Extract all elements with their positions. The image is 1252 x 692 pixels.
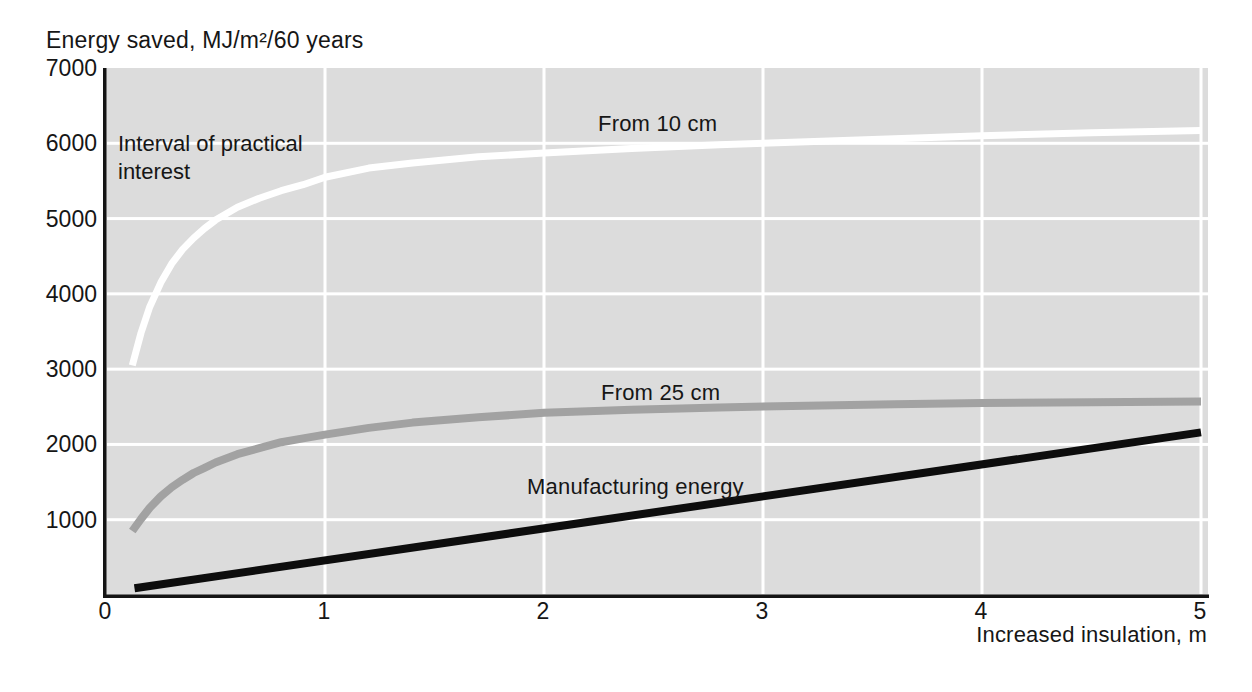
x-tick-label: 2 (523, 599, 563, 623)
series-label-from-10-cm: From 10 cm (598, 111, 717, 137)
x-axis-line (103, 595, 1209, 599)
x-tick-label: 3 (742, 599, 782, 623)
v-gridline (981, 68, 984, 594)
v-gridline (1200, 68, 1203, 594)
series-label-from-25-cm: From 25 cm (601, 380, 720, 406)
chart-page: Energy saved, MJ/m²/60 years 10002000300… (0, 0, 1252, 692)
h-gridline (107, 217, 1208, 220)
x-tick-label: 0 (85, 599, 125, 623)
x-tick-label: 1 (304, 599, 344, 623)
v-gridline (543, 68, 546, 594)
h-gridline (107, 292, 1208, 295)
x-tick-label: 5 (1180, 599, 1220, 623)
x-tick-label: 4 (961, 599, 1001, 623)
x-axis-title: Increased insulation, m (976, 622, 1207, 648)
v-gridline (762, 68, 765, 594)
h-gridline (107, 518, 1208, 521)
v-gridline (324, 68, 327, 594)
y-tick-label: 1000 (25, 508, 97, 532)
h-gridline (107, 368, 1208, 371)
series-label-manufacturing-energy: Manufacturing energy (527, 474, 744, 500)
plot-area (0, 0, 1252, 692)
y-axis-line (103, 68, 107, 598)
annotation-interval-of-practical-interest: Interval of practical interest (118, 130, 303, 186)
y-tick-label: 3000 (25, 357, 97, 381)
y-tick-label: 6000 (25, 131, 97, 155)
y-tick-label: 7000 (25, 56, 97, 80)
y-tick-label: 4000 (25, 282, 97, 306)
y-tick-label: 2000 (25, 432, 97, 456)
y-tick-label: 5000 (25, 207, 97, 231)
